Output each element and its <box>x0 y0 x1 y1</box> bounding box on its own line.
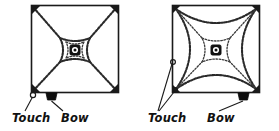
bow-marker-left <box>46 93 57 100</box>
label-bow-right: Bow <box>207 113 235 125</box>
leader-lines-left <box>25 97 63 111</box>
label-bow-left: Bow <box>61 113 89 125</box>
center-clamp-marker-left <box>70 45 80 55</box>
bow-marker-right <box>238 93 249 100</box>
label-touch-right: Touch <box>148 113 186 125</box>
chladni-figure-diagram: Touch Bow Touch Bow <box>0 0 279 131</box>
center-clamp-marker-right <box>211 45 221 55</box>
label-touch-left: Touch <box>12 113 50 125</box>
